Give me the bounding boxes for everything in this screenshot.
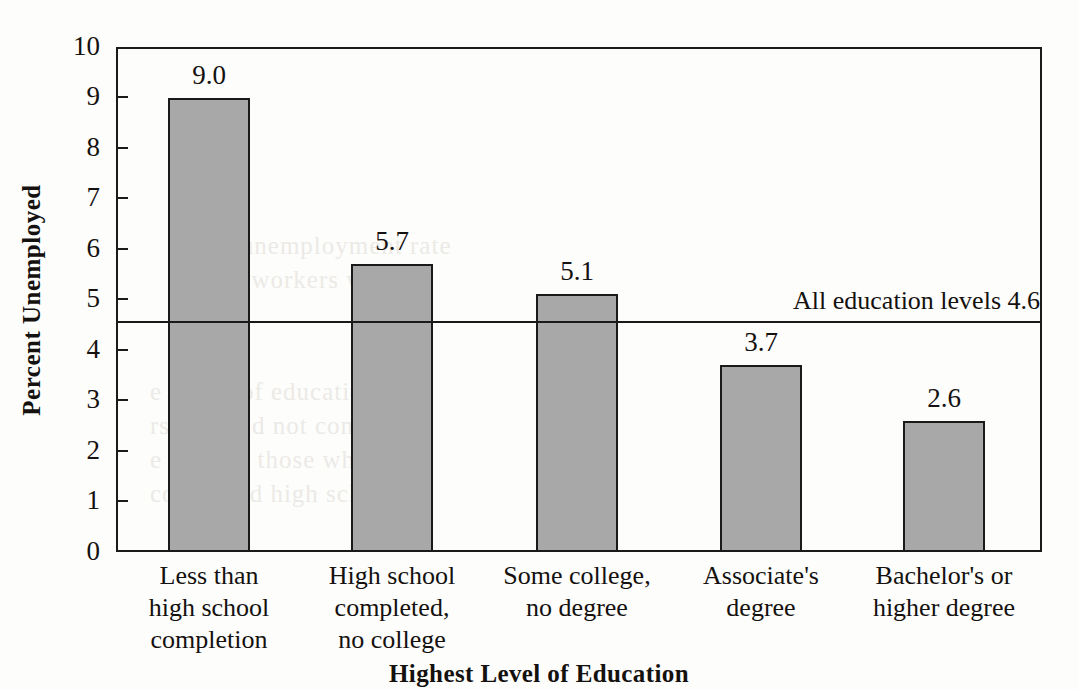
bar-value-label-4: 3.7 <box>646 329 876 356</box>
y-tick-label-1: 1 <box>0 487 100 514</box>
y-tick-label-6: 6 <box>0 235 100 262</box>
bar-associates-degree <box>720 365 802 552</box>
y-tick-label-10: 10 <box>0 33 100 60</box>
bar-value-label-1: 9.0 <box>94 62 324 89</box>
bar-some-college <box>536 294 618 552</box>
category-line-3: no college <box>277 624 507 656</box>
reference-line-label: All education levels 4.6 <box>700 288 1040 314</box>
bar-value-label-2: 5.7 <box>277 228 507 255</box>
bar-value-label-3: 5.1 <box>462 258 692 285</box>
y-tick-label-3: 3 <box>0 386 100 413</box>
y-tick-label-7: 7 <box>0 184 100 211</box>
category-line-1: Bachelor's or <box>829 560 1059 592</box>
bar-less-than-high-school <box>168 98 250 552</box>
y-tick-label-2: 2 <box>0 437 100 464</box>
category-line-2: higher degree <box>829 592 1059 624</box>
bar-bachelors-or-higher <box>903 421 985 552</box>
reference-line-all-education-levels <box>116 321 1042 323</box>
bar-high-school-completed <box>351 264 433 552</box>
y-tick-label-9: 9 <box>0 83 100 110</box>
chart-figure: the unemployment rate for workers with e… <box>0 0 1078 690</box>
y-tick-label-8: 8 <box>0 134 100 161</box>
y-tick-label-0: 0 <box>0 538 100 565</box>
category-label-bachelors-or-higher: Bachelor's or higher degree <box>829 560 1059 624</box>
bar-value-label-5: 2.6 <box>829 385 1059 412</box>
x-axis-title: Highest Level of Education <box>0 660 1078 688</box>
y-tick-label-5: 5 <box>0 285 100 312</box>
y-tick-label-4: 4 <box>0 336 100 363</box>
